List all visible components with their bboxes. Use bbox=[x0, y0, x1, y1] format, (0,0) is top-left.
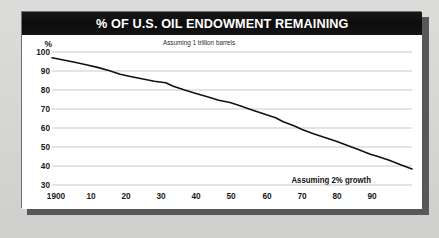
gridlines bbox=[52, 52, 412, 185]
chart-card: % OF U.S. OIL ENDOWMENT REMAINING % 100 … bbox=[21, 11, 421, 208]
chart-page: % OF U.S. OIL ENDOWMENT REMAINING % 100 … bbox=[0, 0, 439, 238]
plot-area: % 100 90 80 70 60 50 40 30 1900 10 20 30… bbox=[22, 35, 422, 209]
plot-canvas bbox=[22, 35, 422, 209]
data-line-oil-endowment bbox=[52, 58, 412, 169]
page-title: % OF U.S. OIL ENDOWMENT REMAINING bbox=[96, 16, 348, 31]
chart-title-bar: % OF U.S. OIL ENDOWMENT REMAINING bbox=[22, 12, 422, 35]
